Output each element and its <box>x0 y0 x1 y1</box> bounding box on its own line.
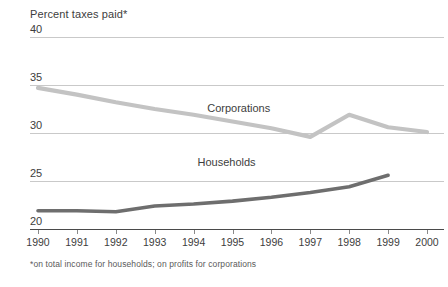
x-axis-tick-label-1991: 1991 <box>65 236 89 248</box>
x-axis-tick-label-1998: 1998 <box>338 236 362 248</box>
x-axis-tick-label-1995: 1995 <box>221 236 245 248</box>
chart-axis-title: Percent taxes paid* <box>30 8 127 20</box>
x-axis-tick-label-1999: 1999 <box>376 236 400 248</box>
x-axis-tick-label-2000: 2000 <box>415 236 439 248</box>
y-axis-tick-label-30: 30 <box>30 119 42 131</box>
series-line-households <box>38 175 388 211</box>
series-label-corporations: Corporations <box>207 102 270 114</box>
x-axis-tick-label-1992: 1992 <box>104 236 128 248</box>
series-label-households: Households <box>197 156 256 168</box>
x-axis-tick-label-1997: 1997 <box>299 236 323 248</box>
x-axis-tick-label-1993: 1993 <box>143 236 167 248</box>
x-axis-tick-label-1996: 1996 <box>260 236 284 248</box>
chart-plot-area: 2025303540199019911992199319941995199619… <box>0 0 448 287</box>
y-axis-tick-label-25: 25 <box>30 167 42 179</box>
y-axis-tick-label-20: 20 <box>30 215 42 227</box>
y-axis-tick-label-40: 40 <box>30 23 42 35</box>
x-axis-tick-label-1994: 1994 <box>182 236 206 248</box>
chart-footnote: *on total income for households; on prof… <box>30 259 256 269</box>
x-axis-tick-label-1990: 1990 <box>26 236 50 248</box>
y-axis-tick-label-35: 35 <box>30 71 42 83</box>
tax-share-line-chart: Percent taxes paid* 20253035401990199119… <box>0 0 448 287</box>
